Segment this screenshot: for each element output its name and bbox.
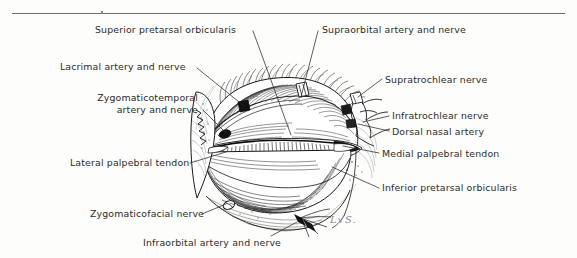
- supratrochlear-stump: [350, 92, 363, 104]
- anatomy-plate: Superior pretarsal orbicularis Supraorbi…: [0, 0, 577, 258]
- label-lacrimal-artery-and-nerve: Lacrimal artery and nerve: [60, 61, 186, 73]
- label-superior-pretarsal-orbicularis: Superior pretarsal orbicularis: [95, 24, 236, 36]
- label-zygomaticofacial-nerve: Zygomaticofacial nerve: [90, 208, 204, 220]
- label-lateral-palpebral-tendon: Lateral palpebral tendon: [70, 157, 189, 169]
- lacrimal-stump: [238, 100, 250, 112]
- label-inferior-pretarsal-orbicularis: Inferior pretarsal orbicularis: [382, 182, 517, 194]
- orbital-dissection-illustration: [0, 0, 577, 258]
- label-supratrochlear-nerve: Supratrochlear nerve: [385, 74, 487, 86]
- label-dorsal-nasal-artery: Dorsal nasal artery: [392, 126, 484, 138]
- label-medial-palpebral-tendon: Medial palpebral tendon: [382, 148, 499, 160]
- label-zygomaticotemporal-artery-and-nerve: Zygomaticotemporal artery and nerve: [78, 92, 198, 115]
- label-infraorbital-artery-and-nerve: Infraorbital artery and nerve: [143, 237, 281, 249]
- artist-signature: L√S.: [330, 214, 357, 225]
- label-infratrochlear-nerve: Infratrochlear nerve: [392, 110, 489, 122]
- label-supraorbital-artery-and-nerve: Supraorbital artery and nerve: [322, 24, 466, 36]
